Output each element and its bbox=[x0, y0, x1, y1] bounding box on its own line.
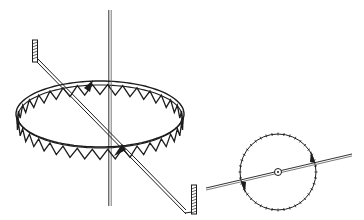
inset-tick bbox=[289, 207, 290, 210]
inset-tick bbox=[240, 160, 243, 161]
inset-tick bbox=[313, 183, 316, 184]
inset-tick bbox=[266, 207, 267, 210]
inset-tick bbox=[289, 134, 290, 137]
vertical-rod bbox=[109, 10, 111, 206]
ring-inner-edge bbox=[18, 117, 182, 149]
illustration bbox=[0, 0, 364, 220]
inset-tick bbox=[266, 134, 267, 137]
ring-markers bbox=[84, 80, 126, 156]
ring-front-half bbox=[16, 114, 184, 160]
diagonal-bar bbox=[33, 40, 197, 214]
ring-outer-edge bbox=[16, 81, 184, 114]
bar-right-bend bbox=[185, 212, 192, 213]
ring-back-half bbox=[16, 81, 184, 124]
ring-outer-edge bbox=[16, 114, 184, 147]
inset-center-dot bbox=[277, 171, 279, 173]
inset-top-view bbox=[206, 133, 352, 212]
figure-canvas bbox=[0, 0, 364, 220]
